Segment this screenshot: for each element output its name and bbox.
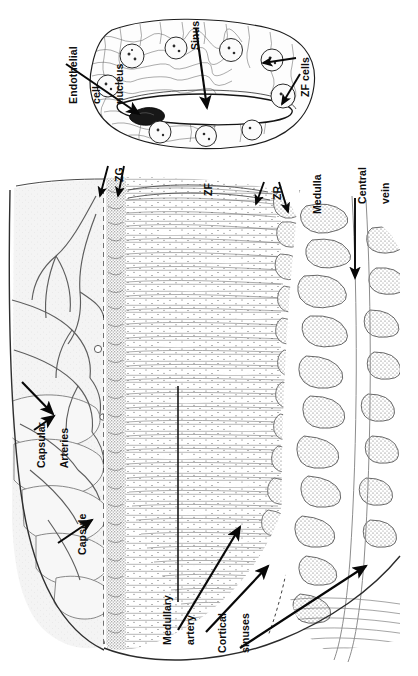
main-label-medullary-artery: Medullary artery <box>150 595 208 657</box>
main-label-zr: ZR <box>272 186 284 200</box>
main-label-central-vein: Central vein <box>345 167 403 216</box>
main-label-capsule: Capsule <box>77 513 89 555</box>
inset-label-sinus: Sinus <box>190 21 202 50</box>
inset-label-endothelial-cell-nucleus: Endothelial cell nucleus <box>56 46 137 116</box>
main-label-capsular-arteries: Capsular Arteries <box>24 422 82 480</box>
main-label-cortical-sinuses: Cortical sinuses <box>205 613 263 665</box>
main-label-zf: ZF <box>203 183 215 196</box>
main-label-zg: ZG <box>114 167 126 182</box>
figure-page: Endothelial cell nucleus Sinus ZF cells … <box>0 0 418 676</box>
main-label-medulla: Medulla <box>312 174 324 214</box>
inset-label-zf-cells: ZF cells <box>300 57 312 97</box>
